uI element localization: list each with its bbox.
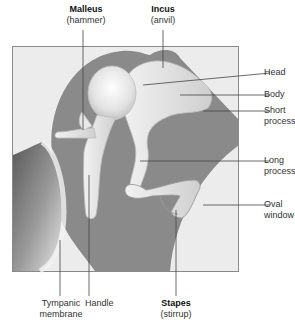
- stapes-name: Stapes: [156, 298, 196, 309]
- incus-common: (anvil): [148, 15, 178, 26]
- label-handle: Handle: [85, 298, 114, 309]
- long-process-line2: process: [264, 166, 295, 177]
- long-process-line1: Long: [264, 155, 295, 166]
- tympanic-line2: membrane: [26, 309, 96, 320]
- short-process-line2: process: [264, 116, 295, 127]
- label-body: Body: [264, 89, 285, 100]
- malleus-name: Malleus: [66, 4, 106, 15]
- label-long-process: Long process: [264, 155, 295, 177]
- stapes-common: (stirrup): [156, 309, 196, 320]
- malleus-head: [88, 66, 136, 120]
- oval-window-line1: Oval: [264, 199, 294, 210]
- label-head: Head: [264, 67, 286, 78]
- malleus-common: (hammer): [66, 15, 106, 26]
- oval-window-line2: window: [264, 210, 294, 221]
- label-incus: Incus (anvil): [148, 4, 178, 26]
- label-oval-window: Oval window: [264, 199, 294, 221]
- incus-name: Incus: [148, 4, 178, 15]
- label-malleus: Malleus (hammer): [66, 4, 106, 26]
- ear-ossicles-illustration: [0, 0, 295, 324]
- short-process-line1: Short: [264, 105, 295, 116]
- label-stapes: Stapes (stirrup): [156, 298, 196, 320]
- label-short-process: Short process: [264, 105, 295, 127]
